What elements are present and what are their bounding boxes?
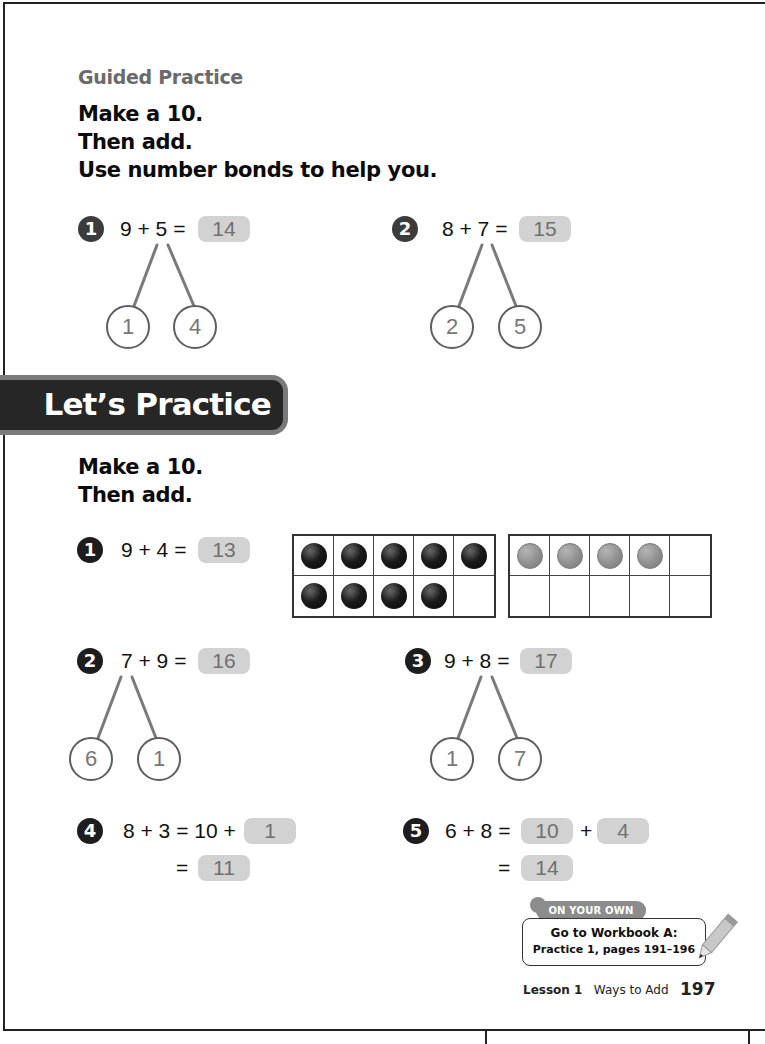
- instruction-line: Make a 10.: [78, 100, 437, 128]
- answer-box: 1: [244, 818, 296, 844]
- equation: 8 + 3 = 10 +: [123, 818, 236, 844]
- grey-counter: [597, 543, 623, 569]
- equation: 8 + 7 =: [442, 216, 507, 242]
- page-number: 197: [680, 979, 716, 999]
- ten-frame: [292, 534, 496, 618]
- bond-part-circle: 4: [173, 305, 217, 349]
- black-counter: [301, 543, 327, 569]
- workbook-line: Go to Workbook A:: [523, 926, 705, 940]
- equation: 9 + 8 =: [444, 648, 509, 674]
- problem-number-badge: 2: [392, 216, 418, 242]
- equals-sign: =: [498, 855, 510, 881]
- footer: Lesson 1 Ways to Add: [523, 983, 669, 997]
- practice-pages-line: Practice 1, pages 191–196: [523, 943, 705, 956]
- black-counter: [341, 543, 367, 569]
- bond-part-circle: 1: [137, 737, 181, 781]
- answer-box: 16: [198, 648, 250, 674]
- black-counter: [341, 583, 367, 609]
- ten-frame: [508, 534, 712, 618]
- divider-line: [748, 1029, 750, 1044]
- lesson-title: Ways to Add: [594, 983, 669, 997]
- grey-counter: [557, 543, 583, 569]
- bond-part-circle: 6: [69, 737, 113, 781]
- problem-number-badge: 1: [78, 216, 104, 242]
- answer-box: 17: [520, 648, 572, 674]
- bond-part-circle: 1: [430, 737, 474, 781]
- instructions: Make a 10. Then add.: [78, 453, 203, 509]
- instruction-line: Use number bonds to help you.: [78, 156, 437, 184]
- lesson-label: Lesson 1: [523, 983, 582, 997]
- workbook-reference-box: Go to Workbook A: Practice 1, pages 191–…: [522, 918, 706, 966]
- answer-box: 4: [597, 818, 649, 844]
- black-counter: [421, 583, 447, 609]
- equation: 6 + 8 =: [445, 818, 510, 844]
- equation: 7 + 9 =: [121, 648, 186, 674]
- pencil-icon: [686, 908, 746, 968]
- section-title: Guided Practice: [78, 66, 243, 88]
- black-counter: [381, 543, 407, 569]
- answer-box: 15: [519, 216, 571, 242]
- problem-number-badge: 4: [77, 818, 103, 844]
- bond-part-circle: 1: [106, 305, 150, 349]
- answer-box: 10: [521, 818, 573, 844]
- answer-box: 14: [521, 855, 573, 881]
- plus-sign: +: [580, 818, 592, 844]
- answer-box: 13: [198, 537, 250, 563]
- bond-part-circle: 2: [430, 305, 474, 349]
- black-counter: [461, 543, 487, 569]
- black-counter: [381, 583, 407, 609]
- problem-number-badge: 2: [77, 648, 103, 674]
- black-counter: [421, 543, 447, 569]
- problem-number-badge: 3: [405, 648, 431, 674]
- equation: 9 + 4 =: [121, 537, 186, 563]
- banner-title: Let’s Practice: [43, 386, 271, 422]
- instruction-line: Then add.: [78, 128, 437, 156]
- answer-box: 11: [198, 855, 250, 881]
- answer-box: 14: [198, 216, 250, 242]
- black-counter: [301, 583, 327, 609]
- divider-line: [485, 1029, 487, 1044]
- instructions: Make a 10. Then add. Use number bonds to…: [78, 100, 437, 184]
- problem-number-badge: 1: [77, 537, 103, 563]
- instruction-line: Then add.: [78, 481, 203, 509]
- page-number-wrap: 197: [680, 979, 716, 999]
- bond-part-circle: 5: [498, 305, 542, 349]
- problem-number-badge: 5: [403, 818, 429, 844]
- equals-sign: =: [176, 855, 188, 881]
- grey-counter: [517, 543, 543, 569]
- equation: 9 + 5 =: [120, 216, 185, 242]
- grey-counter: [637, 543, 663, 569]
- lets-practice-banner: Let’s Practice: [0, 375, 288, 435]
- instruction-line: Make a 10.: [78, 453, 203, 481]
- bond-part-circle: 7: [498, 737, 542, 781]
